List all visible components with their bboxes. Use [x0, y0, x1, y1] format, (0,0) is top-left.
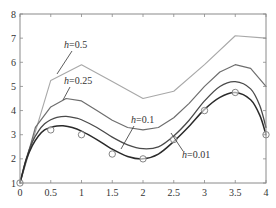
- x-tick-label: 2.5: [168, 187, 181, 198]
- series-h-0-01: [20, 92, 266, 183]
- chart: h=0.5h=0.25h=0.1h=0.01 00.511.522.533.54…: [0, 0, 276, 208]
- y-tick-label: 8: [11, 9, 16, 20]
- curve-label: h=0.1: [131, 114, 154, 125]
- circle-marker: [109, 151, 115, 157]
- curve-annotations: h=0.5h=0.25h=0.1h=0.01: [57, 39, 210, 160]
- axis-ticks: 00.511.522.533.5412345678: [11, 9, 269, 199]
- y-tick-label: 7: [11, 33, 16, 44]
- curve-label: h=0.25: [64, 75, 92, 86]
- x-tick-label: 1.5: [106, 187, 119, 198]
- circle-marker: [201, 107, 207, 113]
- x-tick-label: 1: [79, 187, 84, 198]
- y-tick-label: 1: [11, 178, 16, 189]
- curve-label: h=0.01: [182, 149, 210, 160]
- y-tick-label: 3: [11, 129, 16, 140]
- circle-marker: [140, 156, 146, 162]
- y-tick-label: 6: [11, 57, 16, 68]
- exact-solution-markers: [17, 89, 269, 186]
- y-tick-label: 4: [11, 105, 16, 116]
- x-tick-label: 2: [141, 187, 146, 198]
- circle-marker: [48, 127, 54, 133]
- x-tick-label: 3.5: [229, 187, 242, 198]
- y-tick-label: 5: [11, 81, 16, 92]
- x-tick-label: 3: [202, 187, 207, 198]
- annotation-leader-line: [121, 126, 134, 149]
- y-tick-label: 2: [11, 153, 16, 164]
- x-tick-label: 0: [18, 187, 23, 198]
- x-tick-label: 0.5: [45, 187, 58, 198]
- curve-label: h=0.5: [64, 39, 87, 50]
- x-tick-label: 4: [264, 187, 269, 198]
- series-h-0-1: [20, 82, 266, 183]
- circle-marker: [232, 89, 238, 95]
- circle-marker: [78, 132, 84, 138]
